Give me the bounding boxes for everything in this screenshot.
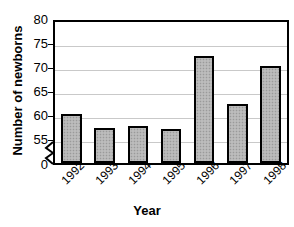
bar-slot (88, 22, 121, 163)
bar[interactable] (194, 56, 215, 163)
bar-chart: Number of newborns 8075706560550 1992199… (0, 0, 294, 227)
bar-slot (254, 22, 287, 163)
bar[interactable] (227, 104, 248, 163)
bar-slot (188, 22, 221, 163)
bar-slot (55, 22, 88, 163)
y-tick-mark (48, 92, 53, 93)
x-tick-slot: 1998 (255, 166, 289, 202)
x-tick-slot: 1994 (120, 166, 154, 202)
y-tick-label: 75 (20, 39, 48, 49)
y-tick-mark (48, 140, 53, 141)
plot-area (53, 20, 289, 165)
y-tick-label: 60 (20, 111, 48, 121)
y-tick-mark (48, 44, 53, 45)
y-tick-label: 70 (20, 63, 48, 73)
x-axis-title: Year (0, 203, 294, 218)
y-tick-label: 65 (20, 87, 48, 97)
x-tick-slot: 1997 (222, 166, 256, 202)
x-tick-slot: 1992 (53, 166, 87, 202)
bar-slot (221, 22, 254, 163)
x-axis-tick-labels: 1992199319941995199619971998 (53, 166, 289, 202)
x-tick-slot: 1995 (154, 166, 188, 202)
bar[interactable] (260, 66, 281, 163)
bar-slot (121, 22, 154, 163)
bar[interactable] (61, 114, 82, 163)
y-tick-label: 80 (20, 15, 48, 25)
x-tick-slot: 1996 (188, 166, 222, 202)
bar[interactable] (128, 126, 149, 163)
x-tick-slot: 1993 (87, 166, 121, 202)
bar-series (55, 22, 287, 163)
bar-slot (154, 22, 187, 163)
y-tick-mark (48, 68, 53, 69)
y-tick-mark (48, 116, 53, 117)
y-axis-tick-labels: 8075706560550 (18, 0, 48, 227)
